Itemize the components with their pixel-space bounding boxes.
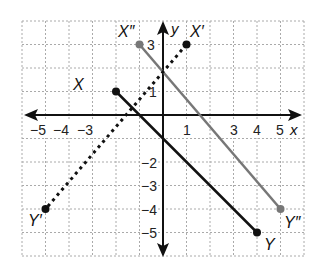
point-y-double-prime <box>277 205 285 213</box>
y-tick-label: −5 <box>141 225 157 241</box>
label-y-double-prime: Y″ <box>284 214 302 231</box>
x-tick-label: 3 <box>230 122 238 138</box>
y-tick-label: 1 <box>149 84 157 100</box>
point-y-prime <box>42 205 50 213</box>
x-tick-label: −4 <box>53 122 69 138</box>
label-x-prime: X′ <box>189 23 205 40</box>
label-y-prime: Y′ <box>28 212 43 229</box>
y-axis-label: y <box>170 20 180 37</box>
point-x-double-prime <box>136 41 144 49</box>
y-tick-label: −2 <box>141 155 157 171</box>
label-y: Y <box>264 236 276 253</box>
label-x: X <box>72 76 85 93</box>
point-y <box>253 229 261 237</box>
x-tick-label: −5 <box>30 122 46 138</box>
y-tick-label: 3 <box>147 37 155 53</box>
point-x-prime <box>183 41 191 49</box>
x-tick-label: 4 <box>253 122 261 138</box>
coordinate-graph: −5 −4 −3 1 3 4 5 x 3 1 −2 −3 −4 −5 y <box>0 0 315 278</box>
x-tick-label: 5 <box>276 122 284 138</box>
label-x-double-prime: X″ <box>117 23 136 40</box>
y-tick-label: −3 <box>141 178 157 194</box>
point-x <box>112 88 120 96</box>
x-axis-label: x <box>289 121 298 138</box>
y-tick-label: −4 <box>141 202 157 218</box>
x-tick-label: −3 <box>77 122 93 138</box>
x-tick-label: 1 <box>183 122 191 138</box>
